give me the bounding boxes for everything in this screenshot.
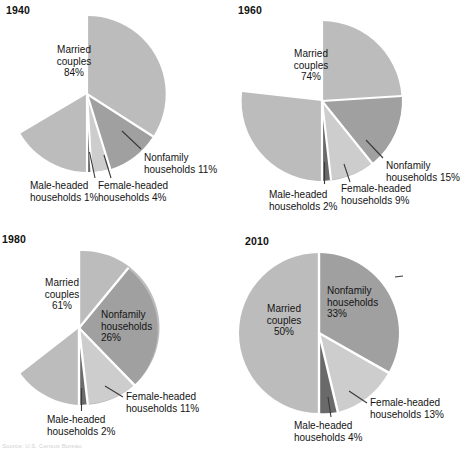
label-married-line1-2010: Married — [249, 303, 319, 315]
label-married-value-1960: 74% — [271, 71, 351, 83]
figure-footnote: Source: U.S. Census Bureau — [2, 443, 82, 449]
label-male-headed-1960: Male-headed households 2% — [269, 189, 337, 212]
label-nonfamily-line1-2010: Nonfamily — [327, 285, 378, 297]
label-nonfamily-line2-1940: households 11% — [144, 164, 217, 176]
label-female-line1-2010: Female-headed — [370, 397, 444, 409]
label-married-1960: Married couples 74% — [271, 48, 351, 83]
label-married-value-1980: 61% — [22, 300, 102, 312]
label-male-line1-1980: Male-headed — [47, 414, 115, 426]
label-nonfamily-line2-1980: households — [101, 321, 152, 333]
label-male-line2-1980: households 2% — [47, 426, 115, 438]
label-married-line2-1940: couples — [34, 56, 114, 68]
label-male-headed-2010: Male-headed households 4% — [294, 420, 362, 443]
label-nonfamily-1960: Nonfamily households 15% — [386, 160, 460, 183]
label-nonfamily-1980: Nonfamily households 26% — [101, 309, 152, 344]
label-male-line1-2010: Male-headed — [294, 420, 362, 432]
label-married-line2-1980: couples — [22, 289, 102, 301]
panel-1960: 1960 — [231, 0, 462, 225]
label-married-line2-2010: couples — [249, 315, 319, 327]
panel-2010: 2010 — [231, 225, 462, 449]
label-female-line1-1940: Female-headed — [98, 180, 168, 192]
label-male-line2-1960: households 2% — [269, 201, 337, 213]
label-nonfamily-line2-2010: households — [327, 297, 378, 309]
label-female-line2-1980: households 11% — [126, 403, 199, 415]
label-nonfamily-2010: Nonfamily households 33% — [327, 285, 378, 320]
label-female-line2-2010: households 13% — [370, 409, 444, 421]
label-male-line2-2010: households 4% — [294, 432, 362, 444]
tick-mark-2010 — [395, 276, 403, 277]
label-married-line1-1980: Married — [22, 277, 102, 289]
label-male-line2-1940: households 1% — [30, 192, 98, 204]
pie-chart-grid: 1940 — [0, 0, 462, 449]
label-married-value-2010: 50% — [249, 326, 319, 338]
label-female-headed-2010: Female-headed households 13% — [370, 397, 444, 420]
label-male-headed-1980: Male-headed households 2% — [47, 414, 115, 437]
panel-1980: 1980 — [0, 225, 231, 449]
label-married-line1-1940: Married — [34, 44, 114, 56]
panel-1940: 1940 — [0, 0, 231, 225]
label-male-line1-1940: Male-headed — [30, 180, 98, 192]
label-female-headed-1980: Female-headed households 11% — [126, 391, 199, 414]
label-nonfamily-line2-1960: households 15% — [386, 172, 460, 184]
label-married-line2-1960: couples — [271, 60, 351, 72]
pie-slices-1940 — [20, 16, 165, 172]
label-male-line1-1960: Male-headed — [269, 189, 337, 201]
label-nonfamily-value-2010: 33% — [327, 308, 378, 320]
label-nonfamily-line1-1980: Nonfamily — [101, 309, 152, 321]
label-married-2010: Married couples 50% — [249, 303, 319, 338]
label-female-headed-1940: Female-headed households 4% — [98, 180, 168, 203]
label-male-headed-1940: Male-headed households 1% — [30, 180, 98, 203]
label-nonfamily-line1-1960: Nonfamily — [386, 160, 460, 172]
label-married-1980: Married couples 61% — [22, 277, 102, 312]
label-female-line1-1960: Female-headed — [341, 183, 411, 195]
label-female-line2-1940: households 4% — [98, 192, 168, 204]
label-married-1940: Married couples 84% — [34, 44, 114, 79]
label-female-headed-1960: Female-headed households 9% — [341, 183, 411, 206]
label-female-line1-1980: Female-headed — [126, 391, 199, 403]
label-married-line1-1960: Married — [271, 48, 351, 60]
label-nonfamily-1940: Nonfamily households 11% — [144, 152, 217, 175]
label-nonfamily-line1-1940: Nonfamily — [144, 152, 217, 164]
label-nonfamily-value-1980: 26% — [101, 332, 152, 344]
label-female-line2-1960: households 9% — [341, 195, 411, 207]
label-married-value-1940: 84% — [34, 67, 114, 79]
